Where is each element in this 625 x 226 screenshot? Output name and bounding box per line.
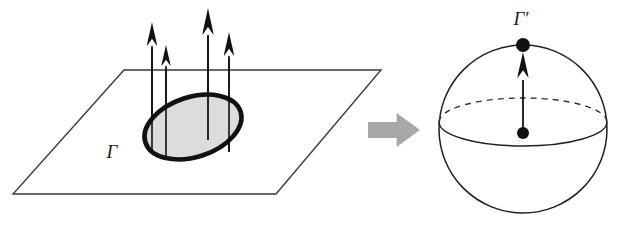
maps-to-arrow-icon [368, 113, 420, 147]
map-arrow-group [368, 113, 420, 147]
right-panel: Γ′ [439, 8, 607, 213]
figure-root: Γ Γ′ [0, 0, 625, 226]
sphere-center-point [517, 127, 529, 139]
image-point-label-gamma-prime: Γ′ [513, 8, 530, 29]
image-point-gamma-prime [516, 38, 530, 52]
left-panel: Γ [13, 8, 381, 194]
diagram-canvas: Γ Γ′ [0, 0, 625, 226]
curve-label-gamma: Γ [106, 141, 119, 162]
closed-curve-gamma [136, 83, 250, 171]
image-normal-vector [518, 52, 529, 133]
image-normal-vector [518, 52, 529, 133]
